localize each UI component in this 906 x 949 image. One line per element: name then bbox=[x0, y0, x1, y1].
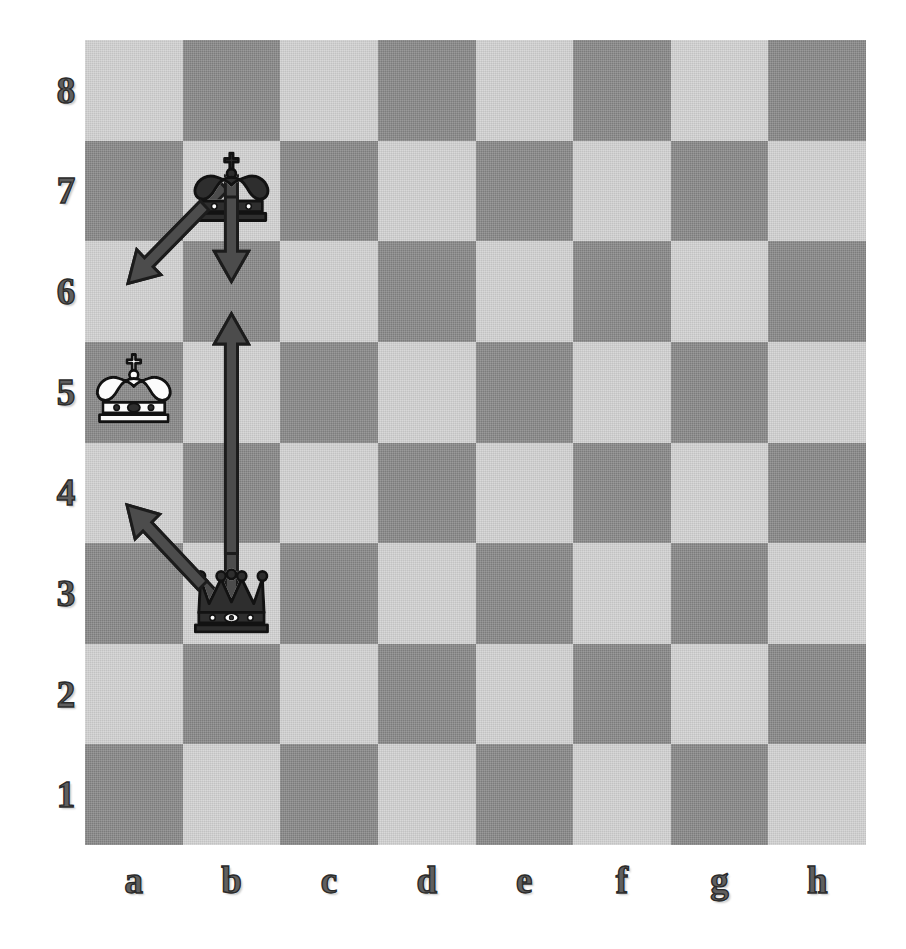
rank-label-2: 2 bbox=[47, 644, 85, 745]
rank-label-text: 1 bbox=[57, 776, 76, 813]
rank-label-text: 4 bbox=[57, 474, 76, 511]
square-e8[interactable] bbox=[476, 40, 574, 141]
square-h8[interactable] bbox=[768, 40, 866, 141]
square-c2[interactable] bbox=[280, 644, 378, 745]
square-a4[interactable] bbox=[85, 443, 183, 544]
square-e6[interactable] bbox=[476, 241, 574, 342]
square-f6[interactable] bbox=[573, 241, 671, 342]
square-a6[interactable] bbox=[85, 241, 183, 342]
square-h2[interactable] bbox=[768, 644, 866, 745]
square-f3[interactable] bbox=[573, 543, 671, 644]
square-d4[interactable] bbox=[378, 443, 476, 544]
square-f1[interactable] bbox=[573, 744, 671, 845]
square-g6[interactable] bbox=[671, 241, 769, 342]
file-label-text: c bbox=[321, 862, 337, 899]
rank-label-1: 1 bbox=[47, 744, 85, 845]
square-e1[interactable] bbox=[476, 744, 574, 845]
chessboard bbox=[85, 40, 866, 845]
square-e5[interactable] bbox=[476, 342, 574, 443]
rank-label-text: 3 bbox=[57, 575, 76, 612]
square-h5[interactable] bbox=[768, 342, 866, 443]
square-d6[interactable] bbox=[378, 241, 476, 342]
square-c3[interactable] bbox=[280, 543, 378, 644]
square-b8[interactable] bbox=[183, 40, 281, 141]
square-c8[interactable] bbox=[280, 40, 378, 141]
file-label-g: g bbox=[671, 849, 769, 911]
square-f2[interactable] bbox=[573, 644, 671, 745]
file-label-text: f bbox=[616, 862, 628, 899]
file-label-f: f bbox=[573, 849, 671, 911]
square-e7[interactable] bbox=[476, 141, 574, 242]
square-g7[interactable] bbox=[671, 141, 769, 242]
square-h6[interactable] bbox=[768, 241, 866, 342]
rank-label-text: 5 bbox=[57, 374, 76, 411]
square-g4[interactable] bbox=[671, 443, 769, 544]
file-label-text: h bbox=[807, 862, 828, 899]
square-g8[interactable] bbox=[671, 40, 769, 141]
square-h3[interactable] bbox=[768, 543, 866, 644]
chess-diagram: 8 7 6 5 4 3 2 1 a b c d e f g h bbox=[0, 0, 906, 949]
square-d1[interactable] bbox=[378, 744, 476, 845]
square-b4[interactable] bbox=[183, 443, 281, 544]
file-labels: a b c d e f g h bbox=[85, 849, 866, 911]
rank-label-5: 5 bbox=[47, 342, 85, 443]
file-label-h: h bbox=[768, 849, 866, 911]
rank-label-3: 3 bbox=[47, 543, 85, 644]
square-e3[interactable] bbox=[476, 543, 574, 644]
square-b1[interactable] bbox=[183, 744, 281, 845]
square-b7[interactable] bbox=[183, 141, 281, 242]
square-b2[interactable] bbox=[183, 644, 281, 745]
file-label-text: a bbox=[125, 862, 144, 899]
square-f8[interactable] bbox=[573, 40, 671, 141]
rank-label-6: 6 bbox=[47, 241, 85, 342]
square-d2[interactable] bbox=[378, 644, 476, 745]
rank-labels: 8 7 6 5 4 3 2 1 bbox=[47, 40, 85, 845]
rank-label-7: 7 bbox=[47, 141, 85, 242]
square-c6[interactable] bbox=[280, 241, 378, 342]
file-label-c: c bbox=[280, 849, 378, 911]
square-a1[interactable] bbox=[85, 744, 183, 845]
square-b6[interactable] bbox=[183, 241, 281, 342]
file-label-text: e bbox=[516, 862, 532, 899]
file-label-text: g bbox=[710, 862, 729, 899]
square-d5[interactable] bbox=[378, 342, 476, 443]
file-label-b: b bbox=[183, 849, 281, 911]
square-h4[interactable] bbox=[768, 443, 866, 544]
square-f4[interactable] bbox=[573, 443, 671, 544]
square-e4[interactable] bbox=[476, 443, 574, 544]
file-label-text: b bbox=[221, 862, 242, 899]
square-e2[interactable] bbox=[476, 644, 574, 745]
file-label-e: e bbox=[476, 849, 574, 911]
square-h1[interactable] bbox=[768, 744, 866, 845]
square-c7[interactable] bbox=[280, 141, 378, 242]
rank-label-text: 7 bbox=[57, 172, 76, 209]
square-a8[interactable] bbox=[85, 40, 183, 141]
square-a5[interactable] bbox=[85, 342, 183, 443]
square-f5[interactable] bbox=[573, 342, 671, 443]
square-g5[interactable] bbox=[671, 342, 769, 443]
rank-label-text: 6 bbox=[57, 273, 76, 310]
square-g2[interactable] bbox=[671, 644, 769, 745]
file-label-d: d bbox=[378, 849, 476, 911]
file-label-a: a bbox=[85, 849, 183, 911]
square-f7[interactable] bbox=[573, 141, 671, 242]
square-a3[interactable] bbox=[85, 543, 183, 644]
rank-label-text: 8 bbox=[57, 72, 76, 109]
square-d3[interactable] bbox=[378, 543, 476, 644]
square-b3[interactable] bbox=[183, 543, 281, 644]
rank-label-text: 2 bbox=[57, 676, 76, 713]
square-d8[interactable] bbox=[378, 40, 476, 141]
square-h7[interactable] bbox=[768, 141, 866, 242]
square-a2[interactable] bbox=[85, 644, 183, 745]
rank-label-4: 4 bbox=[47, 443, 85, 544]
square-c1[interactable] bbox=[280, 744, 378, 845]
file-label-text: d bbox=[416, 862, 437, 899]
square-b5[interactable] bbox=[183, 342, 281, 443]
square-c5[interactable] bbox=[280, 342, 378, 443]
rank-label-8: 8 bbox=[47, 40, 85, 141]
square-d7[interactable] bbox=[378, 141, 476, 242]
square-a7[interactable] bbox=[85, 141, 183, 242]
square-g3[interactable] bbox=[671, 543, 769, 644]
square-c4[interactable] bbox=[280, 443, 378, 544]
square-g1[interactable] bbox=[671, 744, 769, 845]
